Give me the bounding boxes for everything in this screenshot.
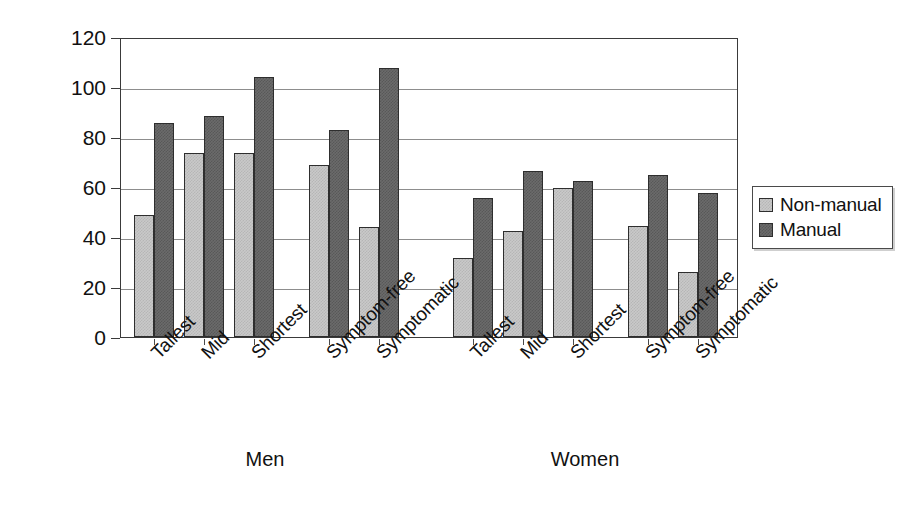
bar-manual bbox=[573, 181, 593, 337]
legend-item-non-manual[interactable]: Non-manual bbox=[759, 192, 882, 217]
bar-manual bbox=[154, 123, 174, 337]
bar-non-manual bbox=[184, 153, 204, 337]
bar-manual bbox=[254, 77, 274, 337]
y-tick-40 bbox=[111, 238, 120, 239]
group-label-women: Women bbox=[525, 448, 645, 471]
legend-item-manual[interactable]: Manual bbox=[759, 217, 882, 242]
y-tick-20 bbox=[111, 288, 120, 289]
y-axis: 020406080100120 bbox=[0, 38, 120, 338]
bar-non-manual bbox=[234, 153, 254, 337]
y-tick-60 bbox=[111, 188, 120, 189]
y-tick-label-40: 40 bbox=[83, 226, 106, 250]
y-tick-label-80: 80 bbox=[83, 126, 106, 150]
y-tick-100 bbox=[111, 88, 120, 89]
bar-non-manual bbox=[453, 258, 473, 337]
legend-label-manual: Manual bbox=[780, 219, 841, 241]
legend-label-non-manual: Non-manual bbox=[780, 194, 882, 216]
y-tick-120 bbox=[111, 38, 120, 39]
bar-manual bbox=[648, 175, 668, 338]
y-tick-label-20: 20 bbox=[83, 276, 106, 300]
y-tick-label-0: 0 bbox=[94, 326, 106, 350]
bar-manual bbox=[523, 171, 543, 337]
y-tick-label-100: 100 bbox=[71, 76, 106, 100]
bar-non-manual bbox=[134, 215, 154, 338]
bar-manual bbox=[204, 116, 224, 337]
y-tick-0 bbox=[111, 338, 120, 339]
gridline-100 bbox=[121, 89, 737, 90]
y-tick-label-120: 120 bbox=[71, 26, 106, 50]
bar-chart-figure: Age-adjusted mean years exposure 0204060… bbox=[0, 0, 924, 514]
legend-swatch-non-manual bbox=[759, 198, 773, 212]
bar-manual bbox=[329, 130, 349, 338]
bar-non-manual bbox=[628, 226, 648, 337]
bar-non-manual bbox=[309, 165, 329, 338]
group-label-men: Men bbox=[205, 448, 325, 471]
y-tick-80 bbox=[111, 138, 120, 139]
legend: Non-manual Manual bbox=[752, 186, 893, 249]
bar-manual bbox=[473, 198, 493, 337]
legend-swatch-manual bbox=[759, 223, 773, 237]
y-tick-label-60: 60 bbox=[83, 176, 106, 200]
bar-non-manual bbox=[553, 188, 573, 337]
